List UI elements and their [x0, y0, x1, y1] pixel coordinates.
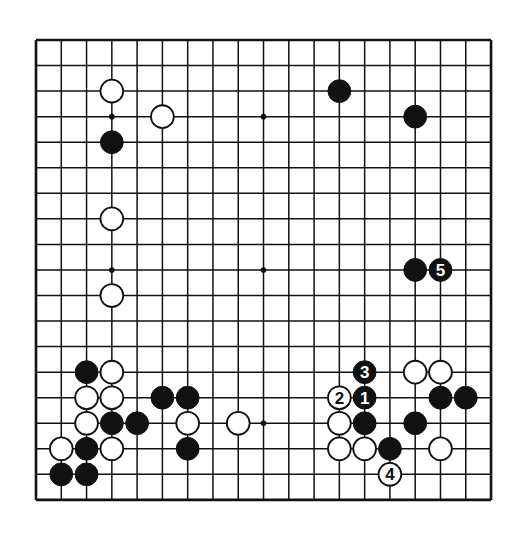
black-stone[interactable] [151, 386, 174, 409]
white-stone[interactable] [75, 412, 98, 435]
white-stone[interactable] [151, 105, 174, 128]
black-stone[interactable] [353, 412, 376, 435]
numbered-white-stone[interactable]: 4 [379, 463, 402, 486]
star-point [109, 267, 115, 273]
black-stone[interactable] [404, 259, 427, 282]
white-stone[interactable] [227, 412, 250, 435]
white-stone[interactable] [75, 386, 98, 409]
white-stone[interactable] [100, 386, 123, 409]
black-stone[interactable] [50, 463, 73, 486]
black-stone[interactable] [379, 437, 402, 460]
star-point [261, 267, 267, 273]
black-stone[interactable] [75, 361, 98, 384]
white-stone[interactable] [429, 437, 452, 460]
white-stone[interactable] [328, 412, 351, 435]
white-stone[interactable] [100, 361, 123, 384]
move-number-label: 5 [436, 261, 445, 280]
black-stone[interactable] [75, 463, 98, 486]
white-stone[interactable] [100, 284, 123, 307]
black-stone[interactable] [126, 412, 149, 435]
black-stone[interactable] [454, 386, 477, 409]
black-stone[interactable] [176, 386, 199, 409]
black-stone[interactable] [404, 105, 427, 128]
black-stone[interactable] [100, 412, 123, 435]
move-number-label: 4 [385, 465, 395, 484]
black-stone[interactable] [100, 131, 123, 154]
black-stone[interactable] [75, 437, 98, 460]
go-board[interactable]: 53214 [0, 0, 525, 539]
move-number-label: 1 [360, 389, 369, 408]
numbered-black-stone[interactable]: 1 [353, 386, 376, 409]
white-stone[interactable] [328, 437, 351, 460]
star-point [261, 114, 267, 120]
black-stone[interactable] [404, 412, 427, 435]
white-stone[interactable] [353, 437, 376, 460]
white-stone[interactable] [429, 361, 452, 384]
white-stone[interactable] [50, 437, 73, 460]
star-point [261, 420, 267, 426]
black-stone[interactable] [328, 80, 351, 103]
star-point [109, 114, 115, 120]
white-stone[interactable] [176, 412, 199, 435]
white-stone[interactable] [100, 207, 123, 230]
white-stone[interactable] [100, 437, 123, 460]
black-stone[interactable] [176, 437, 199, 460]
move-number-label: 3 [360, 363, 369, 382]
numbered-white-stone[interactable]: 2 [328, 386, 351, 409]
white-stone[interactable] [100, 80, 123, 103]
white-stone[interactable] [404, 361, 427, 384]
numbered-black-stone[interactable]: 3 [353, 361, 376, 384]
black-stone[interactable] [429, 386, 452, 409]
move-number-label: 2 [335, 389, 344, 408]
numbered-black-stone[interactable]: 5 [429, 259, 452, 282]
